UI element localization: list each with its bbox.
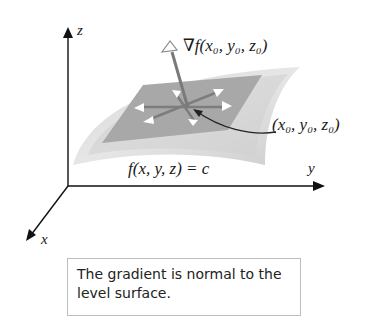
caption-box: The gradient is normal to the level surf… bbox=[67, 258, 301, 316]
point-label: (x₀, y₀, z₀) bbox=[272, 115, 340, 134]
x-axis-label: x bbox=[40, 231, 48, 247]
z-axis-arrowhead bbox=[63, 27, 73, 38]
y-axis-arrowhead bbox=[313, 181, 325, 191]
gradient-arrowhead bbox=[162, 41, 177, 52]
surface-equation-label: f(x, y, z) = c bbox=[128, 159, 210, 178]
z-axis-label: z bbox=[76, 22, 83, 38]
caption-text: The gradient is normal to the level surf… bbox=[77, 266, 282, 301]
y-axis-label: y bbox=[306, 160, 315, 176]
gradient-label: ∇f(x₀, y₀, z₀) bbox=[183, 36, 268, 55]
